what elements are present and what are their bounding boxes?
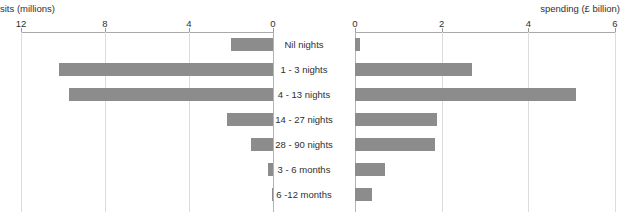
axis-tick-label: 0 [340,18,370,29]
gridline [21,32,22,212]
back-to-back-bar-chart: sits (millions) spending (£ billion) 128… [0,0,624,220]
gridline [442,32,443,212]
bar [59,63,273,76]
bar [251,138,273,151]
bar [355,138,435,151]
bar [355,38,360,51]
category-label: 6 -12 months [274,189,334,200]
bar [355,163,385,176]
axis-tick-label: 4 [513,18,543,29]
bar [69,88,273,101]
gridline [615,32,616,212]
axis-line [21,32,273,33]
bar [227,113,273,126]
bar [268,163,273,176]
bar [355,63,472,76]
right-chart-panel: 0246 [334,0,624,220]
gridline [528,32,529,212]
gridline [105,32,106,212]
bar [355,113,437,126]
category-label: Nil nights [274,39,334,50]
bar [355,188,372,201]
axis-tick-label: 6 [600,18,624,29]
bar [272,188,273,201]
category-label: 14 - 27 nights [274,114,334,125]
bar [355,88,576,101]
category-label: 4 - 13 nights [274,89,334,100]
axis-line [355,32,615,33]
bar [231,38,273,51]
axis-tick-label: 2 [427,18,457,29]
category-label-column: Nil nights1 - 3 nights4 - 13 nights14 - … [274,0,334,220]
category-label: 28 - 90 nights [274,139,334,150]
category-label: 1 - 3 nights [274,64,334,75]
axis-tick-label: 12 [6,18,36,29]
left-chart-panel: 12840 [0,0,290,220]
category-label: 3 - 6 months [274,164,334,175]
gridline [189,32,190,212]
axis-tick-label: 4 [174,18,204,29]
axis-tick-label: 8 [90,18,120,29]
